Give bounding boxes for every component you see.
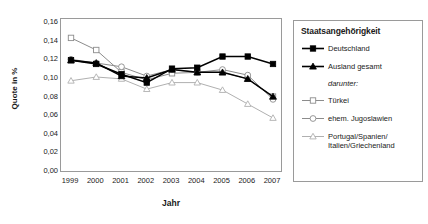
y-tick-label: 0,16 [28,18,58,26]
legend-items: DeutschlandAusland gesamtdarunter:Türkei… [301,43,422,151]
data-point [310,46,315,51]
legend-item-label: Türkei [328,95,349,105]
data-point [144,80,149,85]
legend-subnote: darunter: [328,79,422,88]
legend-item-label: Portugal/Spanien/Italien/Griechenland [328,131,395,151]
legend-item-0[interactable]: Deutschland [301,43,422,54]
series-canvas [61,19,283,173]
data-point [310,116,316,122]
legend-marker-icon [301,61,325,72]
x-tick-label: 2007 [255,176,289,185]
y-axis-tick-labels: 0,000,020,040,060,080,100,120,140,16 [26,0,58,224]
y-tick-label: 0,00 [28,167,58,175]
y-axis-title: Quote in % [10,49,19,129]
data-point [310,98,315,103]
legend-item-label: ehem. Jugoslawien [328,113,392,123]
data-point [245,54,250,59]
data-point [119,64,125,70]
data-point [119,72,124,77]
legend-item-4[interactable]: Portugal/Spanien/Italien/Griechenland [301,131,422,151]
legend-marker-icon [301,95,325,106]
legend-item-label: Deutschland [328,43,370,53]
legend-title: Staatsangehörigkeit [301,26,422,36]
legend-item-3[interactable]: ehem. Jugoslawien [301,113,422,124]
y-tick-label: 0,14 [28,37,58,45]
y-tick-label: 0,06 [28,111,58,119]
data-point [68,35,73,40]
legend-marker-icon [301,131,325,142]
y-tick-label: 0,04 [28,130,58,138]
y-tick-label: 0,08 [28,93,58,101]
data-point [94,61,99,66]
legend-item-1[interactable]: Ausland gesamt [301,61,422,72]
legend-marker-icon [301,113,325,124]
legend-item-2[interactable]: Türkei [301,95,422,106]
data-point [195,65,200,70]
data-point [68,58,73,63]
legend-marker-icon [301,43,325,54]
data-point [270,115,276,121]
legend-box: Staatsangehörigkeit DeutschlandAusland g… [293,20,423,182]
plot-area [60,18,282,172]
chart-figure: Quote in % 0,000,020,040,060,080,100,120… [0,0,428,224]
y-tick-label: 0,12 [28,55,58,63]
data-point [245,101,251,107]
y-tick-label: 0,02 [28,148,58,156]
data-point [169,66,174,71]
data-point [94,47,99,52]
data-point [220,54,225,59]
x-axis-tick-labels: 199920002001200220032004200520062007 [60,176,282,190]
data-point [93,74,99,80]
data-point [270,61,275,66]
x-axis-title: Jahr [60,198,282,208]
y-tick-label: 0,10 [28,74,58,82]
legend-item-label: Ausland gesamt [328,61,382,71]
